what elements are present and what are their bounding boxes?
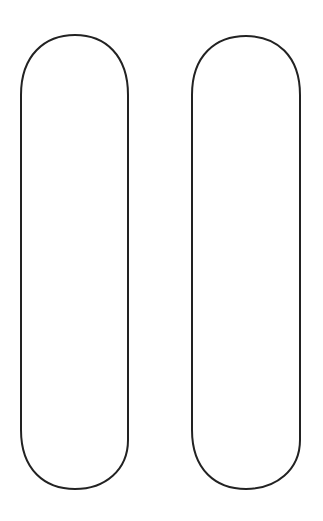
left-bar-outline [21,35,128,489]
right-bar-outline [192,36,300,489]
pause-icon-outline [0,0,323,521]
